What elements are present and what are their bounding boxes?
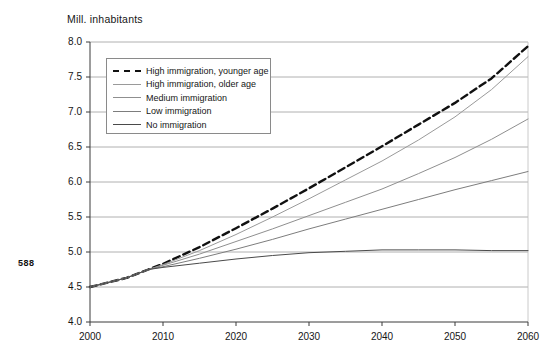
y-tick-label: 4.0 xyxy=(52,316,82,327)
legend-item-label: High immigration, younger age xyxy=(146,66,269,76)
y-tick-label: 6.0 xyxy=(52,176,82,187)
line-chart-figure xyxy=(0,0,555,363)
solid-line-swatch xyxy=(113,120,141,130)
x-tick-label: 2020 xyxy=(214,331,258,342)
y-tick-label: 5.0 xyxy=(52,246,82,257)
legend-item-label: No immigration xyxy=(146,120,207,130)
solid-line-swatch xyxy=(113,93,141,103)
y-tick-label: 7.5 xyxy=(52,71,82,82)
x-tick-label: 2030 xyxy=(287,331,331,342)
x-tick-label: 2000 xyxy=(68,331,112,342)
legend-item: High immigration, younger age xyxy=(107,64,270,78)
y-tick-label: 8.0 xyxy=(52,36,82,47)
x-tick-marks-group xyxy=(90,322,528,326)
y-tick-label: 7.0 xyxy=(52,106,82,117)
legend-item-label: High immigration, older age xyxy=(146,79,256,89)
legend-item: High immigration, older age xyxy=(107,78,270,92)
solid-line-swatch xyxy=(113,79,141,89)
legend-item: Medium immigration xyxy=(107,91,270,105)
y-tick-label: 4.5 xyxy=(52,281,82,292)
series-line-4 xyxy=(90,250,528,287)
x-tick-label: 2060 xyxy=(506,331,550,342)
legend-item: No immigration xyxy=(107,118,270,132)
x-tick-label: 2050 xyxy=(433,331,477,342)
y-tick-marks-group xyxy=(86,42,90,322)
legend-item-label: Low immigration xyxy=(146,106,212,116)
x-tick-label: 2040 xyxy=(360,331,404,342)
y-tick-label: 6.5 xyxy=(52,141,82,152)
chart-legend: High immigration, younger ageHigh immigr… xyxy=(106,58,271,134)
legend-item-label: Medium immigration xyxy=(146,93,227,103)
dashed-line-swatch xyxy=(113,66,141,76)
legend-item: Low immigration xyxy=(107,105,270,119)
y-tick-label: 5.5 xyxy=(52,211,82,222)
x-tick-label: 2010 xyxy=(141,331,185,342)
series-line-2 xyxy=(90,119,528,287)
solid-line-swatch xyxy=(113,106,141,116)
